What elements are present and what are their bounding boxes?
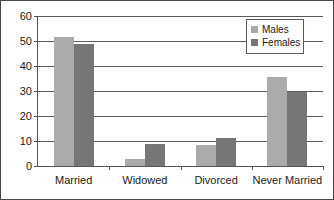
bar-males-never-married xyxy=(267,77,287,166)
legend-label-males: Males xyxy=(262,25,289,35)
bar-chart-figure: 0102030405060 MarriedWidowedDivorcedNeve… xyxy=(0,0,334,200)
x-axis-category-label: Divorced xyxy=(194,175,237,186)
y-axis-tick-label: 50 xyxy=(20,36,32,47)
y-axis-tick xyxy=(34,166,38,167)
x-axis-tick xyxy=(181,166,182,170)
bar-females-widowed xyxy=(145,144,165,167)
x-axis-tick xyxy=(323,166,324,170)
legend-swatch-males-icon xyxy=(251,26,258,33)
bar-females-married xyxy=(74,44,94,166)
x-axis-tick xyxy=(109,166,110,170)
y-axis-tick-label: 20 xyxy=(20,111,32,122)
x-axis-category-label: Never Married xyxy=(253,175,323,186)
x-axis-tick xyxy=(252,166,253,170)
y-axis-tick-label: 40 xyxy=(20,61,32,72)
bar-females-divorced xyxy=(216,138,236,166)
bar-females-never-married xyxy=(287,92,307,166)
legend-swatch-females-icon xyxy=(251,39,258,46)
bar-males-divorced xyxy=(196,145,216,166)
y-axis-tick-label: 10 xyxy=(20,136,32,147)
bar-males-married xyxy=(54,37,74,166)
y-axis-tick-label: 60 xyxy=(20,11,32,22)
legend-item-males[interactable]: Males xyxy=(251,23,299,36)
legend-label-females: Females xyxy=(262,38,300,48)
x-axis-category-label: Widowed xyxy=(122,175,167,186)
legend-item-females[interactable]: Females xyxy=(251,36,299,49)
y-axis-tick-label: 0 xyxy=(26,161,32,172)
y-axis-tick-label: 30 xyxy=(20,86,32,97)
bar-males-widowed xyxy=(125,159,145,166)
chart-legend: Males Females xyxy=(246,19,304,54)
x-axis-category-label: Married xyxy=(55,175,92,186)
